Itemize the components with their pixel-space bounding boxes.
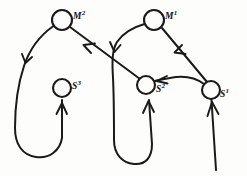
edge-s2-to-m2 [70, 27, 140, 79]
diagram-canvas: M2 M1 S3 S2 S1 [0, 0, 247, 176]
node-label-m2: M2 [73, 11, 85, 21]
node-label-s1: S1 [220, 89, 229, 99]
diagram-svg [0, 0, 247, 176]
edge-path-s1-m1 [162, 28, 207, 82]
node-s1-circle[interactable] [202, 81, 220, 99]
node-m1-circle[interactable] [144, 10, 164, 30]
edge-path-input-s1 [212, 100, 217, 170]
edge-input-to-s1 [208, 100, 219, 170]
node-s2-circle[interactable] [137, 76, 155, 94]
node-label-s2: S2 [156, 84, 165, 94]
edge-s1-to-m1 [162, 28, 207, 82]
edge-path-s2-m2 [70, 27, 140, 79]
node-label-s3: S3 [72, 81, 81, 91]
node-m2-circle[interactable] [52, 10, 72, 30]
node-s3-circle[interactable] [53, 79, 71, 97]
node-label-m1: M1 [165, 11, 177, 21]
